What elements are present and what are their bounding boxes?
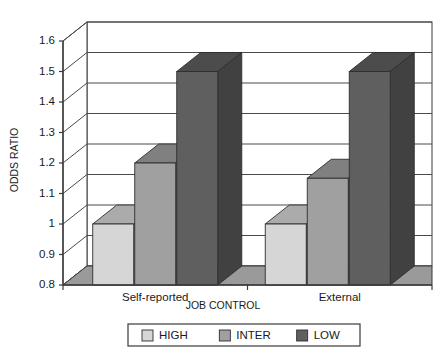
x-axis bbox=[63, 285, 432, 290]
bar-front-face bbox=[135, 163, 176, 285]
y-tick-label: 0.8 bbox=[39, 278, 55, 290]
y-tick-label: 0.9 bbox=[39, 248, 55, 260]
legend-item-low: LOW bbox=[297, 329, 340, 341]
bar-side-face bbox=[218, 53, 242, 286]
x-category-label: Self-reported bbox=[122, 291, 188, 303]
legend-label: INTER bbox=[236, 329, 270, 341]
bar-low-external bbox=[349, 53, 414, 286]
bar-front-face bbox=[265, 224, 306, 285]
legend-swatch bbox=[219, 330, 230, 341]
y-axis bbox=[59, 41, 63, 285]
y-tick-label: 1.5 bbox=[39, 65, 55, 77]
bar-side-face bbox=[390, 53, 414, 286]
legend-label: LOW bbox=[314, 329, 340, 341]
bar-front-face bbox=[349, 72, 390, 286]
bar-low-self-reported bbox=[177, 53, 242, 286]
y-tick-label: 1.1 bbox=[39, 187, 55, 199]
y-tick-label: 1.2 bbox=[39, 156, 55, 168]
bar-front-face bbox=[93, 224, 134, 285]
y-tick-label: 1.4 bbox=[39, 95, 56, 107]
y-tick-label: 1.3 bbox=[39, 126, 55, 138]
chart-canvas: 0.80.911.11.21.31.41.51.6 Self-reportedE… bbox=[0, 0, 446, 360]
legend: HIGHINTERLOW bbox=[128, 324, 360, 346]
legend-swatch bbox=[297, 330, 308, 341]
legend-label: HIGH bbox=[159, 329, 188, 341]
y-tick-label: 1 bbox=[49, 217, 55, 229]
odds-ratio-bar-chart: 0.80.911.11.21.31.41.51.6 Self-reportedE… bbox=[0, 0, 446, 360]
y-axis-title: ODDS RATIO bbox=[8, 128, 20, 193]
bar-front-face bbox=[307, 178, 348, 285]
x-category-label: External bbox=[319, 291, 361, 303]
y-tick-labels: 0.80.911.11.21.31.41.51.6 bbox=[39, 34, 56, 290]
bar-front-face bbox=[177, 72, 218, 286]
x-axis-title: JOB CONTROL bbox=[186, 299, 261, 311]
legend-item-inter: INTER bbox=[219, 329, 270, 341]
y-tick-label: 1.6 bbox=[39, 34, 55, 46]
legend-item-high: HIGH bbox=[142, 329, 188, 341]
legend-swatch bbox=[142, 330, 153, 341]
